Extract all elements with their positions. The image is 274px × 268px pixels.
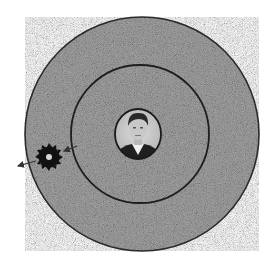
saw-blade-hole [46, 154, 52, 160]
diagram-canvas: Concentric ring diagram with central por… [0, 0, 274, 268]
diagram-svg [0, 0, 274, 268]
